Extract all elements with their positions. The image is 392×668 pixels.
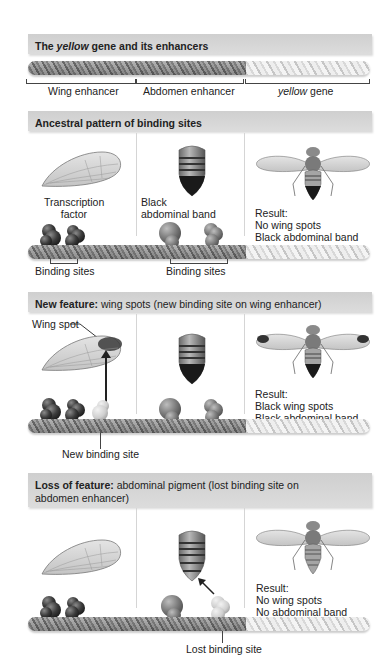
separator <box>244 314 245 414</box>
tf-line2: factor <box>44 208 104 220</box>
leader-line <box>100 433 101 449</box>
label-wing-enhancer: Wing enhancer <box>48 85 119 97</box>
result-line: Black abdominal band <box>255 231 358 243</box>
title-rest: gene and its enhancers <box>89 40 209 52</box>
panel-ancestral-title: Ancestral pattern of binding sites <box>28 111 372 131</box>
label-abdomen-enhancer: Abdomen enhancer <box>143 85 235 97</box>
result-line: Result: <box>255 207 358 219</box>
abdomen-illustration <box>175 330 209 386</box>
arrow-head-icon <box>101 350 111 358</box>
separator <box>136 314 137 414</box>
leader-line <box>222 631 223 643</box>
black-line2: abdominal band <box>141 208 216 220</box>
dna-strand-loss-feature <box>28 617 370 631</box>
label-transcription-factor: Transcriptionfactor <box>44 196 104 220</box>
title-bold: Loss of feature: <box>35 479 114 491</box>
dna-strand-new-feature <box>28 419 370 433</box>
transcription-factors-mid <box>158 220 228 248</box>
abdomen-no-band-illustration <box>175 527 209 583</box>
result-line: Result: <box>255 388 358 400</box>
fly-with-spots-illustration <box>253 322 373 380</box>
title-text: Ancestral pattern of binding sites <box>35 117 202 129</box>
label-lost-binding-site: Lost binding site <box>186 643 262 655</box>
title-rest: abdominal pigment (lost binding site on <box>114 479 299 491</box>
abdomen-illustration <box>175 142 209 198</box>
label-new-binding-site: New binding site <box>62 448 139 460</box>
result-line: No wing spots <box>256 594 347 606</box>
black-line1: Black <box>141 196 216 208</box>
title-bold: New feature: <box>35 298 98 310</box>
wing-with-spot-illustration <box>40 332 124 376</box>
gene-name: yellow <box>278 85 307 97</box>
bracket-yellow-gene <box>245 79 370 84</box>
label-binding-sites-wing: Binding sites <box>35 265 95 277</box>
title-rest: wing spots (new binding site on wing enh… <box>98 298 322 310</box>
result-ancestral: Result:No wing spotsBlack abdominal band <box>255 207 358 243</box>
bracket-abdomen-enhancer <box>136 79 244 84</box>
tf-line1: Transcription <box>44 196 104 208</box>
result-line: Result: <box>256 582 347 594</box>
label-yellow-gene: yellow gene <box>278 85 333 97</box>
gene-suffix: gene <box>307 85 333 97</box>
wing-illustration <box>40 148 124 192</box>
title-text: The <box>35 40 57 52</box>
dna-strand-ancestral <box>28 245 370 259</box>
bracket-wing-enhancer <box>26 79 136 84</box>
result-line: No wing spots <box>255 219 358 231</box>
dna-strand-structure <box>28 61 370 75</box>
title-line2: abdomen enhancer) <box>35 492 129 504</box>
separator <box>244 133 245 236</box>
bracket-binding-sites <box>50 259 78 264</box>
bracket-binding-sites <box>170 259 228 264</box>
separator <box>136 133 137 236</box>
panel-loss-feature-title: Loss of feature: abdominal pigment (lost… <box>28 473 372 507</box>
panel-structure-title: The yellow gene and its enhancers <box>28 34 372 54</box>
result-line: Black wing spots <box>255 400 358 412</box>
separator <box>244 508 245 608</box>
result-loss-feature: Result:No wing spotsNo abdominal band <box>256 582 347 618</box>
panel-new-feature-title: New feature: wing spots (new binding sit… <box>28 292 372 312</box>
label-binding-sites-abdomen: Binding sites <box>166 265 226 277</box>
label-black-abdominal-band: Blackabdominal band <box>141 196 216 220</box>
title-italic: yellow <box>57 40 89 52</box>
wing-illustration <box>40 536 124 580</box>
fly-no-band-illustration <box>253 518 373 576</box>
separator <box>136 508 137 608</box>
fly-illustration <box>253 144 373 202</box>
